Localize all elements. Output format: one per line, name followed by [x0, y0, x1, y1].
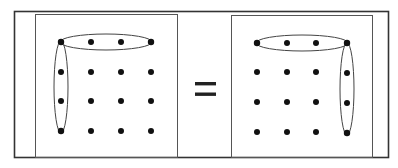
left-left-column-loop [54, 41, 68, 133]
diagram-canvas [0, 0, 398, 168]
left-panel [36, 15, 178, 158]
left-panel-border [36, 15, 178, 158]
right-panel-border [232, 16, 373, 158]
right-dot-grid [254, 40, 350, 136]
left-dot-grid [58, 39, 154, 134]
right-top-row-loop [256, 35, 348, 51]
left-top-row-loop [60, 34, 152, 50]
equals-sign [195, 82, 216, 96]
right-panel [232, 16, 373, 158]
right-right-column-loop [340, 43, 354, 135]
